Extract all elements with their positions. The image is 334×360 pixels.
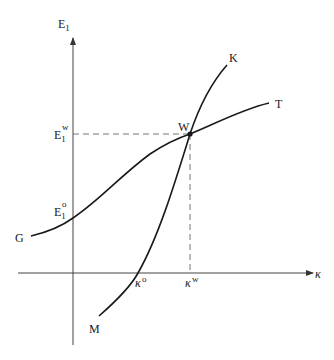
x-tick-kappa-o: κ <box>135 276 141 290</box>
y-tick-e1w-sup: w <box>62 122 69 132</box>
y-tick-e1o-sup: o <box>62 199 67 209</box>
intersection-label: W <box>178 120 190 134</box>
curve-label-t: T <box>275 97 283 111</box>
x-tick-kappa-w-sup: w <box>192 274 199 284</box>
curve-label-g: G <box>15 231 24 245</box>
curve-label-m: M <box>89 322 100 336</box>
curve-mk <box>99 65 227 316</box>
y-axis-label: E1 <box>58 17 70 33</box>
curve-label-k: K <box>229 51 238 65</box>
x-tick-kappa-w: κ <box>185 276 191 290</box>
equilibrium-diagram: E1 κ E1 w E1 o κ o κ w G T M K W <box>0 0 334 360</box>
x-axis-label: κ <box>315 267 321 281</box>
x-tick-kappa-o-sup: o <box>142 274 147 284</box>
